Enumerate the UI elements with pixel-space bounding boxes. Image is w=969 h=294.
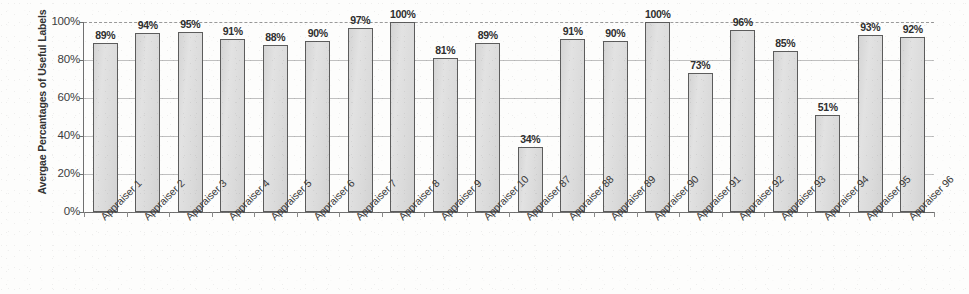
bar-group[interactable]: 89% [93,22,118,212]
bar-value-label: 91% [211,25,254,37]
y-axis-tick-label: 60% [40,92,80,103]
bar-value-label: 95% [169,18,212,30]
bar-value-label: 85% [764,37,807,49]
bar-value-label: 51% [806,101,849,113]
y-axis-tick-labels: 100%80%60%40%20%0% [40,0,80,294]
bar-value-label: 89% [466,29,509,41]
bar-chart: Avergae Percantages of Useful Labels 100… [0,0,969,294]
y-axis-tick-label: 20% [40,168,80,179]
y-axis-tick-label: 80% [40,54,80,65]
y-axis-tick-label: 40% [40,130,80,141]
bar-value-label: 88% [254,31,297,43]
bar-value-label: 81% [424,44,467,56]
bar-value-label: 94% [126,19,169,31]
bar-value-label: 34% [509,133,552,145]
bar-value-label: 92% [891,23,934,35]
bar-value-label: 96% [721,16,764,28]
bar[interactable] [93,43,118,212]
y-axis-tick-label: 100% [40,16,80,27]
bar-value-label: 93% [849,21,892,33]
y-axis-tick-label: 0% [40,206,80,217]
bar-value-label: 100% [636,8,679,20]
bar-value-label: 97% [339,14,382,26]
x-axis-tick-labels: Appraiser 1Appraiser 2Appraiser 3Apprais… [83,214,933,294]
bar-value-label: 89% [84,29,127,41]
bar[interactable] [688,73,713,212]
bar-value-label: 90% [296,27,339,39]
bar-value-label: 73% [679,59,722,71]
x-axis-tick-mark [934,212,935,217]
bar-value-label: 90% [594,27,637,39]
bars-layer: 89%94%95%91%88%90%97%100%81%89%34%91%90%… [84,22,934,212]
bar-value-label: 100% [381,8,424,20]
bar-value-label: 91% [551,25,594,37]
